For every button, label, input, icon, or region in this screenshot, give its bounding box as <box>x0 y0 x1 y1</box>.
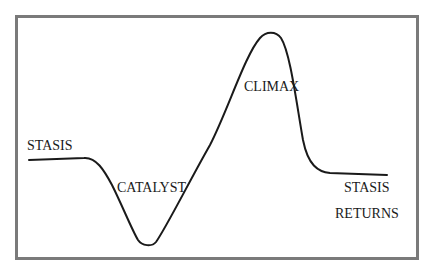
story-arc-diagram: STASIS CATALYST CLIMAX STASIS RETURNS <box>0 0 431 270</box>
label-stasis-returns-line2: RETURNS <box>335 207 399 221</box>
label-catalyst: CATALYST <box>117 181 186 195</box>
label-climax: CLIMAX <box>244 80 299 94</box>
label-stasis-returns-line1: STASIS <box>344 181 390 195</box>
label-stasis: STASIS <box>27 139 73 153</box>
story-arc-curve <box>0 0 431 270</box>
